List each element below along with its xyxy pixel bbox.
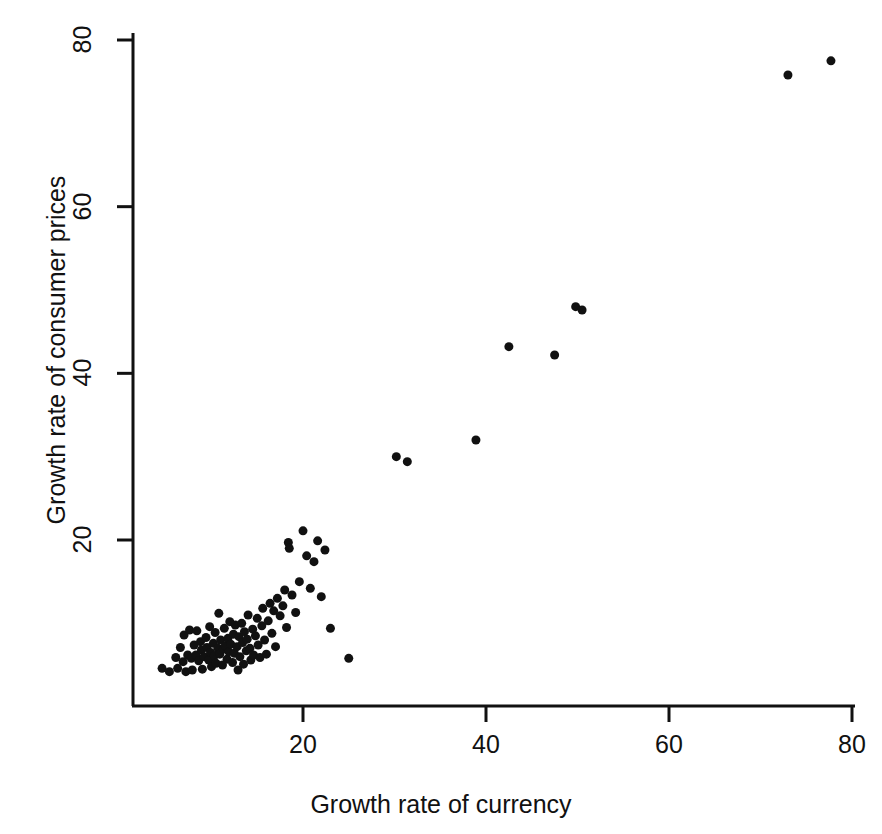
y-tick-label: 80 <box>68 15 97 65</box>
data-point <box>783 71 792 80</box>
data-point <box>826 56 835 65</box>
y-tick-label: 40 <box>68 348 97 398</box>
data-point <box>403 457 412 466</box>
data-point <box>264 616 273 625</box>
data-point <box>188 666 197 675</box>
data-point <box>344 654 353 663</box>
data-point <box>313 536 322 545</box>
data-point <box>291 608 300 617</box>
data-point <box>276 611 285 620</box>
data-point-group <box>158 56 836 676</box>
data-point <box>243 635 252 644</box>
x-tick-label: 20 <box>285 730 321 759</box>
x-axis-ticks <box>303 706 852 722</box>
data-point <box>214 609 223 618</box>
data-point <box>285 544 294 553</box>
data-point <box>299 526 308 535</box>
data-point <box>288 591 297 600</box>
data-point <box>260 636 269 645</box>
data-point <box>253 614 262 623</box>
y-tick-label: 20 <box>68 515 97 565</box>
data-point <box>309 557 318 566</box>
data-point <box>271 642 280 651</box>
data-point <box>251 631 260 640</box>
y-tick-label: 60 <box>68 181 97 231</box>
x-axis-title: Growth rate of currency <box>0 790 882 819</box>
data-point <box>302 551 311 560</box>
data-point <box>471 436 480 445</box>
data-point <box>211 628 220 637</box>
data-point <box>317 592 326 601</box>
data-point <box>550 351 559 360</box>
data-point <box>244 611 253 620</box>
data-point <box>295 577 304 586</box>
data-point <box>280 586 289 595</box>
axis-lines <box>132 33 855 706</box>
data-point <box>273 594 282 603</box>
data-point <box>228 658 237 667</box>
plot-canvas <box>0 0 882 834</box>
data-point <box>258 604 267 613</box>
data-point <box>578 306 587 315</box>
data-point <box>262 650 271 659</box>
x-tick-label: 80 <box>834 730 870 759</box>
data-point <box>198 665 207 674</box>
data-point <box>306 584 315 593</box>
data-point <box>202 633 211 642</box>
y-axis-ticks <box>117 40 133 540</box>
data-point <box>320 546 329 555</box>
data-point <box>392 452 401 461</box>
data-point <box>165 667 174 676</box>
data-point <box>504 342 513 351</box>
data-point <box>237 619 246 628</box>
data-point <box>267 629 276 638</box>
x-tick-label: 40 <box>468 730 504 759</box>
data-point <box>278 601 287 610</box>
data-point <box>326 624 335 633</box>
scatter-plot-figure: Growth rate of currency Growth rate of c… <box>0 0 882 834</box>
x-tick-label: 60 <box>651 730 687 759</box>
data-point <box>192 626 201 635</box>
data-point <box>176 643 185 652</box>
data-point <box>282 623 291 632</box>
